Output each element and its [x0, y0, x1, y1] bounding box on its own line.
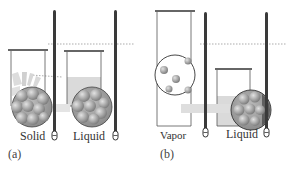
thermometer-solid: [52, 10, 57, 140]
label-vapor: Vapor: [160, 130, 186, 141]
phase-diagram: [0, 0, 290, 173]
thermometer-vapor: [203, 12, 208, 137]
panel-b: [155, 10, 287, 137]
label-liquid-b: Liquid: [226, 128, 258, 140]
label-solid: Solid: [20, 130, 45, 142]
solid-level-line: [30, 75, 62, 77]
thermometer-liquid: [113, 10, 118, 140]
panel-label-a: (a): [8, 148, 21, 160]
panel-a: [8, 10, 135, 140]
solid-particle-view: [11, 87, 52, 127]
panel-label-b: (b): [160, 148, 174, 160]
liquid-particle-view: [72, 87, 112, 127]
vapor-particle-view: [155, 55, 195, 95]
connector-band: [181, 104, 235, 113]
label-liquid-a: Liquid: [73, 130, 105, 142]
